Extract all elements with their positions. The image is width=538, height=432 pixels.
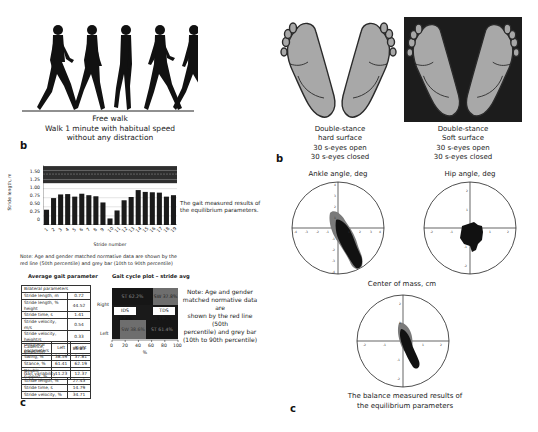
panel-label-b-left: b (20, 140, 27, 151)
table-row: Stride time, s14.79 (22, 385, 91, 392)
stride-bar (150, 192, 155, 225)
svg-text:-2: -2 (397, 377, 400, 381)
walking-silhouettes-illustration (18, 22, 198, 117)
svg-text:-3: -3 (332, 259, 335, 263)
stride-bar (72, 197, 77, 225)
stride-bar (107, 218, 112, 225)
hard-surface-caption: Double-stance hard surface 30 s-eyes ope… (290, 125, 390, 162)
stride-bar (65, 194, 70, 225)
hip-angle-sway-plot: -2-112 21-1-2 (422, 180, 518, 276)
stride-xtick: 3 (57, 227, 63, 233)
stride-xtick: 5 (71, 227, 77, 233)
svg-text:-2: -2 (430, 230, 433, 234)
left-swing-bar: SW 38.6% (120, 320, 146, 339)
svg-text:2: 2 (399, 302, 401, 306)
svg-text:2: 2 (334, 205, 336, 209)
svg-text:-2: -2 (363, 343, 366, 347)
center-of-mass-sway-plot: -2-112 21-1-2 (355, 293, 451, 389)
svg-text:1: 1 (422, 343, 424, 347)
center-of-mass-title: Center of mass, cm (352, 280, 452, 290)
feet-hard-surface-illustration (276, 16, 401, 124)
stride-bar (143, 192, 148, 225)
svg-text:2: 2 (440, 343, 442, 347)
stride-xtick: 9 (99, 227, 105, 233)
svg-text:1: 1 (334, 216, 336, 220)
svg-text:-2: -2 (332, 248, 335, 252)
stride-bar (93, 196, 98, 225)
left-stance-bar: ST 61.4% (146, 320, 178, 339)
walk-caption-line2: Walk 1 minute with habitual speed (20, 124, 200, 134)
stride-xtick: 2 (50, 227, 56, 233)
table-row: Stride length, m0.72 (22, 293, 91, 300)
svg-text:-4: -4 (294, 230, 297, 234)
stride-xtick: 4 (64, 227, 70, 233)
svg-text:2: 2 (507, 230, 509, 234)
stride-xtick: 6 (78, 227, 84, 233)
svg-text:-3: -3 (305, 230, 308, 234)
stride-bar (51, 198, 56, 225)
gait-row-label-right: Right (97, 302, 109, 308)
walk-caption: Free walk Walk 1 minute with habitual sp… (20, 114, 200, 143)
stride-bar (164, 197, 169, 225)
ankle-angle-sway-plot: -4-3-2-1 1234 4321 -1-2-3-4 (290, 180, 386, 276)
stride-bar (44, 210, 49, 225)
normative-band (43, 166, 177, 183)
right-stance-bar: ST 62.2% (112, 288, 153, 305)
stride-bar (100, 202, 105, 225)
panel-label-c-left: c (20, 397, 26, 408)
svg-text:4: 4 (334, 183, 336, 187)
svg-text:1: 1 (466, 208, 468, 212)
stride-side-text: The gait measured results of the equilib… (180, 200, 260, 214)
svg-text:3: 3 (334, 194, 336, 198)
stride-xticks: 12345678910111213141516171819 (43, 227, 177, 237)
stride-bar (122, 200, 127, 225)
stride-xtick: 19 (170, 226, 178, 234)
svg-text:-1: -1 (397, 358, 400, 362)
walk-caption-line3: without any distraction (20, 133, 200, 143)
table-row: Stride length, % height44.52 (22, 300, 91, 312)
svg-text:2: 2 (359, 230, 361, 234)
tds-label: TDS 11.2% (153, 307, 175, 315)
gait-cycle-title: Gait cycle plot – stride avg (112, 273, 190, 279)
svg-text:-1: -1 (332, 237, 335, 241)
table-row: Stride velocity, m/s0.54 (22, 319, 91, 331)
stride-bar (171, 195, 176, 225)
gait-cycle-xlabel: % (110, 350, 180, 356)
svg-text:2: 2 (466, 189, 468, 193)
right-swing-bar: SW 37.8% (153, 288, 178, 305)
svg-text:1: 1 (348, 230, 350, 234)
stride-bar (79, 194, 84, 225)
svg-text:3: 3 (370, 230, 372, 234)
panel-label-b-right: b (276, 153, 283, 164)
svg-text:1: 1 (399, 321, 401, 325)
balance-caption: The balance measured results of the equi… (320, 392, 490, 411)
gait-row-label-left: Left (100, 331, 109, 337)
walk-caption-line1: Free walk (20, 114, 200, 124)
gait-variability-table: Gait variability Stride length, %27.43 S… (21, 370, 91, 399)
stride-bar (157, 193, 162, 225)
stride-xlabel: Stride number (43, 242, 177, 248)
svg-text:-2: -2 (316, 230, 319, 234)
stride-xtick: 1 (43, 227, 49, 233)
gait-cycle-plot: ST 62.2% SW 37.8% IDS 12.4% TDS 11.2% SW… (112, 288, 178, 339)
ankle-angle-title: Ankle angle, deg (288, 170, 388, 180)
stride-bar (115, 210, 120, 225)
stride-bar (136, 190, 141, 225)
ids-label: IDS 12.4% (114, 307, 136, 315)
table-row: Stride time, s1.41 (22, 312, 91, 319)
gait-cycle-xticks: 0 20 40 60 80 100 (110, 343, 182, 350)
gait-cycle-side-note: Note: Age and gender matched normative d… (180, 288, 260, 344)
soft-surface-caption: Double-stance Soft surface 30 s-eyes ope… (413, 125, 513, 162)
svg-text:-4: -4 (332, 270, 335, 274)
table-header: Bilateral parameters (22, 286, 91, 293)
svg-text:-2: -2 (464, 264, 467, 268)
hip-angle-title: Hip angle, deg (420, 170, 520, 180)
svg-text:-1: -1 (383, 343, 386, 347)
stride-length-bar-chart (43, 165, 177, 225)
avg-gait-title: Average gait parameter (28, 273, 98, 279)
svg-text:-1: -1 (450, 230, 453, 234)
stride-xtick: 8 (92, 227, 98, 233)
table-row: Stride length, %27.43 (22, 378, 91, 385)
stride-xtick: 7 (85, 227, 91, 233)
stride-bar (86, 195, 91, 225)
